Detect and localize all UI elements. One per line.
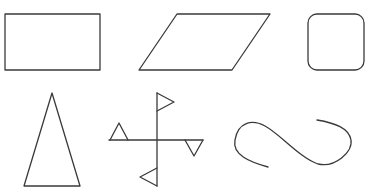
shapes-svg xyxy=(0,0,372,196)
shapes-canvas xyxy=(0,0,372,196)
pinwheel-shape xyxy=(109,93,203,186)
parallelogram-shape xyxy=(139,14,270,70)
triangle-shape xyxy=(24,93,80,186)
s-curve-shape xyxy=(235,120,351,167)
rounded-square-shape xyxy=(308,14,364,70)
rectangle-shape xyxy=(5,14,100,70)
